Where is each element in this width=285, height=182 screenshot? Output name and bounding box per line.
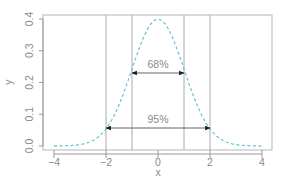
y-axis-label: y xyxy=(2,79,14,85)
x-tick-label: 4 xyxy=(259,156,265,168)
y-tick-label: 0.2 xyxy=(23,75,35,90)
y-tick-label: 0.0 xyxy=(23,139,35,154)
plot-frame xyxy=(43,15,272,150)
coverage-label: 68% xyxy=(147,58,168,70)
y-tick-label: 0.3 xyxy=(23,43,35,58)
coverage-label: 95% xyxy=(147,113,168,125)
y-tick-label: 0.4 xyxy=(23,12,35,27)
y-tick-label: 0.1 xyxy=(23,107,35,122)
x-tick-label: −2 xyxy=(100,156,112,168)
normal-density-line xyxy=(54,19,262,146)
sd-reference-lines xyxy=(106,15,210,150)
normal-distribution-chart: 68%95% 0.00.10.20.30.4 −4−2024 x y xyxy=(0,0,285,182)
x-tick-label: −4 xyxy=(48,156,60,168)
density-curve xyxy=(54,19,262,146)
x-axis-label: x xyxy=(155,166,161,178)
x-tick-label: 2 xyxy=(207,156,213,168)
coverage-annotations: 68%95% xyxy=(106,58,210,128)
y-axis: 0.00.10.20.30.4 xyxy=(23,12,43,154)
